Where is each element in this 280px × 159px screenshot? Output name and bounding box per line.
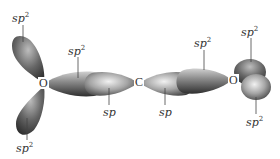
c-left-sp-lobe <box>85 72 139 96</box>
left-o-lower-lobe <box>16 86 45 135</box>
atom-right-oxygen: O <box>228 74 239 86</box>
co2-orbital-diagram: O C O sp2 sp2 sp2 sp sp sp2 sp2 sp2 <box>0 0 280 159</box>
label-right-o-bonding: sp2 <box>194 37 211 49</box>
right-o-bonding-lobe <box>177 68 233 93</box>
label-left-o-lower: sp2 <box>16 142 33 154</box>
label-c-right-sp: sp <box>159 107 172 118</box>
label-right-o-lower: sp2 <box>246 116 263 128</box>
atom-left-oxygen: O <box>38 77 49 89</box>
label-right-o-upper: sp2 <box>241 26 258 38</box>
right-o-lower-lobe <box>241 74 271 100</box>
atom-carbon: C <box>134 76 144 88</box>
label-left-o-bonding: sp2 <box>68 45 85 57</box>
label-left-o-upper: sp2 <box>12 12 29 24</box>
label-c-left-sp: sp <box>103 107 116 118</box>
